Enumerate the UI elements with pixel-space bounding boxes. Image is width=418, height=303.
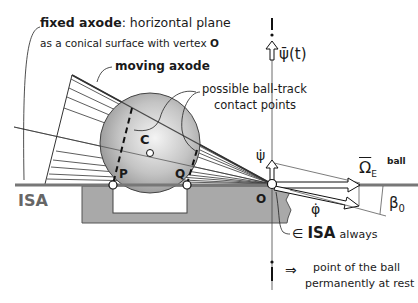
- psi-dot-label: ψ̇: [256, 148, 265, 162]
- fixed-axode-line2: as a conical surface with vertex O: [40, 38, 219, 49]
- isa-always-label: ∈ ISA always: [292, 226, 377, 241]
- psi-bar-t-label: ψ̄(t): [279, 47, 306, 62]
- point-o-marker: [268, 180, 277, 189]
- psi-bar-arrow-icon: [266, 41, 278, 60]
- point-p-label: P: [119, 168, 128, 180]
- phi-dot-label: φ̇: [311, 202, 320, 216]
- moving-axode-label: moving axode: [115, 60, 210, 72]
- point-c-label: C: [140, 133, 150, 146]
- fixed-axode-rest: : horizontal plane: [122, 15, 231, 30]
- point-q-label: Q: [175, 168, 185, 180]
- vertex-name: O: [210, 37, 219, 49]
- point-o-label: O: [256, 193, 266, 205]
- omega-symbol: Ω: [359, 158, 371, 177]
- beta-label: β0: [389, 196, 405, 214]
- beta-subscript: 0: [399, 203, 405, 214]
- omega-label: ΩE: [359, 160, 377, 179]
- fixed-axode-bold: fixed axode: [40, 15, 122, 30]
- element-of-symbol: ∈: [292, 226, 303, 241]
- contact-points-label-1: possible ball-track: [202, 84, 307, 96]
- isa-always-word: always: [340, 228, 378, 241]
- fixed-axode-label: fixed axode: horizontal plane: [40, 17, 231, 30]
- omega-subscript: E: [371, 169, 377, 179]
- point-p-marker: [109, 181, 117, 189]
- rest-label-1: point of the ball: [313, 262, 400, 273]
- rest-label-2: permanently at rest: [305, 278, 414, 289]
- point-q-marker: [183, 181, 191, 189]
- omega-superscript: ball: [387, 157, 406, 166]
- fixed-axode-desc: as a conical surface with vertex: [40, 37, 207, 49]
- beta-symbol: β: [389, 194, 399, 212]
- point-c-marker: [147, 150, 154, 157]
- psi-dot-arrow-icon: [266, 160, 278, 181]
- contact-points-label-2: contact points: [214, 100, 296, 112]
- isa-always-isa: ISA: [307, 224, 335, 242]
- isa-label: ISA: [18, 193, 48, 209]
- beta-angle-arc: [380, 186, 383, 214]
- implies-symbol: ⇒: [285, 263, 297, 277]
